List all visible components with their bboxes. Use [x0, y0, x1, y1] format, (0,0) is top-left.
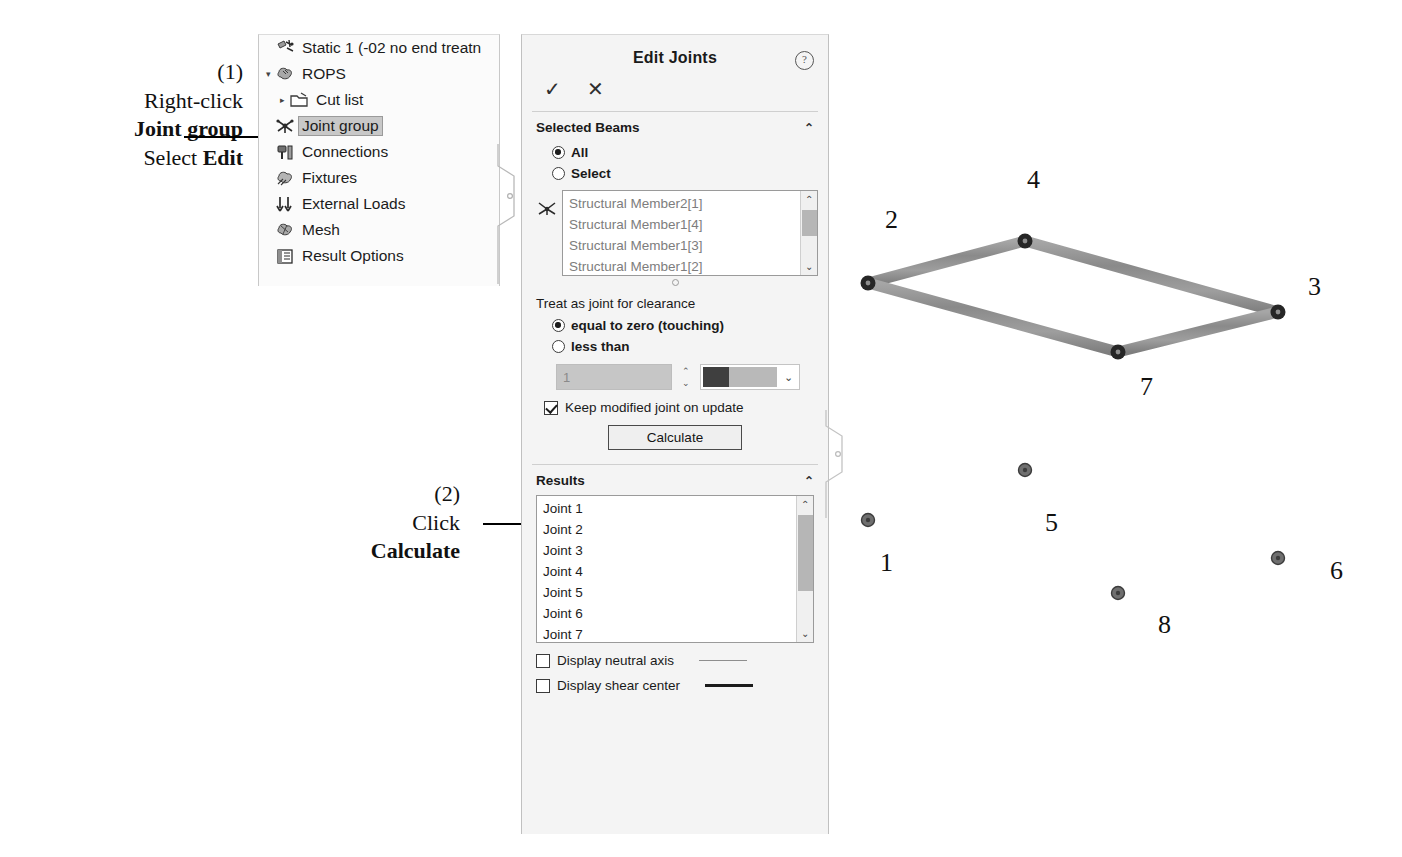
section-title: Results	[536, 473, 585, 488]
beam-frame-3d-view: 1 2 3 4 5 6 7 8	[830, 140, 1390, 700]
list-item[interactable]: Structural Member2[1]	[569, 193, 817, 214]
radio-all-label: All	[571, 145, 588, 160]
tree-item-mesh[interactable]: Mesh	[259, 217, 499, 243]
tree-item-label: Fixtures	[299, 169, 360, 187]
keep-modified-joint-row[interactable]: Keep modified joint on update	[522, 390, 828, 415]
annotation-step-2-line1: Click	[300, 509, 460, 538]
selected-beams-listbox[interactable]: Structural Member2[1] Structural Member1…	[562, 190, 818, 276]
list-item[interactable]: Structural Member1[2]	[569, 256, 817, 276]
radio-row-less-than[interactable]: less than	[522, 336, 828, 357]
list-item[interactable]: Joint 5	[543, 582, 813, 603]
scrollbar-thumb[interactable]	[802, 210, 817, 236]
clearance-stepper[interactable]: ⌃ ⌄	[682, 368, 690, 387]
tree-item-fixtures[interactable]: Fixtures	[259, 165, 499, 191]
beams-list-row: Structural Member2[1] Structural Member1…	[522, 184, 828, 276]
tree-item-label: Joint group	[299, 117, 382, 135]
tree-item-cut-list[interactable]: ▸ Cut list	[259, 87, 499, 113]
joint-label-7: 7	[1140, 372, 1153, 402]
radio-select[interactable]	[552, 167, 565, 180]
stepper-up-icon[interactable]: ⌃	[682, 368, 690, 375]
color-swatch	[703, 367, 729, 387]
tree-item-result-options[interactable]: Result Options	[259, 243, 499, 269]
scrollbar-thumb[interactable]	[798, 515, 813, 591]
tree-item-static-1[interactable]: Static 1 (-02 no end treatn	[259, 35, 499, 61]
keep-modified-joint-checkbox[interactable]	[544, 401, 558, 415]
radio-row-select[interactable]: Select	[522, 163, 828, 184]
stepper-down-icon[interactable]: ⌄	[682, 380, 690, 387]
neutral-axis-line-sample	[699, 660, 747, 661]
scroll-up-icon[interactable]: ⌃	[797, 496, 813, 513]
annotation-step-1-line2: Joint group	[28, 115, 243, 144]
external-loads-icon	[275, 195, 296, 214]
radio-row-all[interactable]: All	[522, 142, 828, 163]
panel-actions: ✓ ✕	[522, 67, 828, 107]
chevron-up-icon[interactable]: ⌃	[804, 121, 814, 135]
result-options-icon	[275, 247, 296, 266]
tree-item-label: Static 1 (-02 no end treatn	[299, 39, 484, 57]
accept-button[interactable]: ✓	[544, 79, 561, 99]
radio-less-than[interactable]	[552, 340, 565, 353]
tree-item-label: Cut list	[313, 91, 366, 109]
scroll-down-icon[interactable]: ⌄	[801, 258, 817, 275]
joint-label-2: 2	[885, 205, 898, 235]
annotation-step-1: (1) Right-click Joint group Select Edit	[28, 58, 243, 172]
calculate-row: Calculate	[522, 415, 828, 460]
display-shear-center-label: Display shear center	[557, 678, 680, 693]
display-neutral-axis-row[interactable]: Display neutral axis	[522, 643, 828, 668]
listbox-resize-handle[interactable]	[672, 279, 679, 286]
radio-equal-to-zero[interactable]	[552, 319, 565, 332]
scroll-up-icon[interactable]: ⌃	[801, 191, 817, 208]
tree-item-external-loads[interactable]: External Loads	[259, 191, 499, 217]
calculate-button[interactable]: Calculate	[608, 425, 742, 450]
display-shear-center-row[interactable]: Display shear center	[522, 668, 828, 693]
joint-label-4: 4	[1027, 165, 1040, 195]
tree-item-connections[interactable]: Connections	[259, 139, 499, 165]
tree-item-label: Result Options	[299, 247, 407, 265]
section-header-results[interactable]: Results ⌃	[522, 465, 828, 495]
tree-item-label: External Loads	[299, 195, 408, 213]
radio-less-than-label: less than	[571, 339, 630, 354]
list-item[interactable]: Joint 6	[543, 603, 813, 624]
list-item[interactable]: Joint 2	[543, 519, 813, 540]
scroll-down-icon[interactable]: ⌄	[797, 625, 813, 642]
cancel-button[interactable]: ✕	[587, 79, 604, 99]
radio-all[interactable]	[552, 146, 565, 159]
clearance-label: Treat as joint for clearance	[522, 286, 828, 315]
tree-item-rops[interactable]: ▾ ROPS	[259, 61, 499, 87]
beam-top-front-right	[1118, 312, 1278, 352]
list-item[interactable]: Joint 7	[543, 624, 813, 643]
list-item[interactable]: Structural Member1[4]	[569, 214, 817, 235]
joint-group-icon	[275, 117, 296, 136]
tree-item-joint-group[interactable]: Joint group	[259, 113, 499, 139]
listbox-scrollbar[interactable]: ⌃ ⌄	[796, 496, 813, 642]
radio-equal-to-zero-label: equal to zero (touching)	[571, 318, 724, 333]
clearance-value-input[interactable]: 1	[556, 364, 672, 390]
clearance-color-dropdown[interactable]: ⌄	[700, 364, 800, 390]
chevron-up-icon[interactable]: ⌃	[804, 474, 814, 488]
annotation-step-2: (2) Click Calculate	[300, 480, 460, 566]
joint-label-6: 6	[1330, 556, 1343, 586]
chevron-down-icon[interactable]: ⌄	[777, 371, 799, 384]
annotation-step-1-line3: Select Edit	[28, 144, 243, 173]
list-item[interactable]: Structural Member1[3]	[569, 235, 817, 256]
results-listbox[interactable]: Joint 1 Joint 2 Joint 3 Joint 4 Joint 5 …	[536, 495, 814, 643]
listbox-scrollbar[interactable]: ⌃ ⌄	[800, 191, 817, 275]
list-item[interactable]: Joint 3	[543, 540, 813, 561]
section-header-selected-beams[interactable]: Selected Beams ⌃	[522, 112, 828, 142]
list-item[interactable]: Joint 4	[543, 561, 813, 582]
list-item[interactable]: Joint 1	[543, 498, 813, 519]
frame-top-beams	[868, 241, 1278, 352]
beam-top-back-left	[868, 241, 1025, 283]
tree-expander-rops[interactable]: ▾	[261, 69, 275, 79]
annotation-step-1-leader-line	[184, 136, 264, 138]
shear-center-line-sample	[705, 684, 753, 687]
tree-expander-cut-list[interactable]: ▸	[275, 95, 289, 105]
display-neutral-axis-label: Display neutral axis	[557, 653, 674, 668]
feature-tree[interactable]: Static 1 (-02 no end treatn ▾ ROPS ▸ Cut…	[258, 34, 500, 286]
display-neutral-axis-checkbox[interactable]	[536, 654, 550, 668]
beam-top-back-right	[1025, 241, 1278, 312]
help-icon[interactable]: ?	[795, 51, 814, 70]
display-shear-center-checkbox[interactable]	[536, 679, 550, 693]
radio-row-equal-zero[interactable]: equal to zero (touching)	[522, 315, 828, 336]
section-title: Selected Beams	[536, 120, 640, 135]
